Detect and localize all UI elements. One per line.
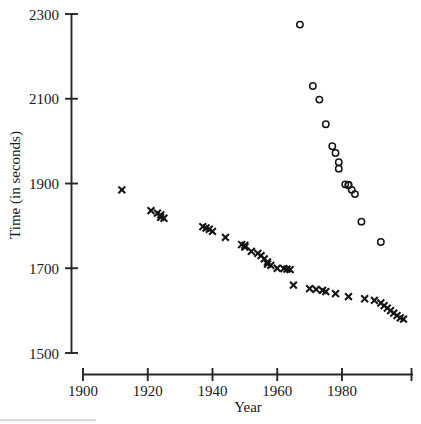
scatter-plot-figure: Time (in seconds) 15001700190021002300 1…: [0, 0, 421, 424]
y-tick-label: 1500: [29, 346, 59, 362]
y-tick-label: 2300: [29, 7, 59, 23]
data-point-x: [361, 295, 368, 302]
data-point-x: [345, 293, 352, 300]
x-tick-label: 1900: [68, 383, 98, 399]
x-tick-labels: 19001920194019601980: [68, 383, 357, 399]
data-point-circle: [332, 150, 338, 156]
chart-canvas: Time (in seconds) 15001700190021002300 1…: [0, 0, 421, 424]
data-point-circle: [336, 165, 342, 171]
data-point-x: [118, 186, 125, 193]
data-point-x: [274, 265, 281, 272]
data-point-circle: [297, 21, 303, 27]
x-tick-label: 1980: [327, 383, 357, 399]
y-tick-label: 2100: [29, 91, 59, 107]
data-point-circle: [358, 218, 364, 224]
x-tick-label: 1960: [262, 383, 292, 399]
data-point-x: [290, 282, 297, 289]
data-point-circle: [310, 83, 316, 89]
data-point-x: [248, 248, 255, 255]
data-point-circle: [378, 239, 384, 245]
data-point-circle: [316, 96, 322, 102]
data-point-circle: [336, 159, 342, 165]
data-point-x: [222, 234, 229, 241]
y-axis-title: Time (in seconds): [7, 131, 24, 239]
data-point-x: [332, 290, 339, 297]
data-series-x-markers: [118, 186, 406, 322]
data-point-circle: [323, 121, 329, 127]
y-tick-label: 1700: [29, 261, 59, 277]
x-tick-label: 1920: [133, 383, 163, 399]
data-point-x: [148, 207, 155, 214]
y-tick-labels: 15001700190021002300: [29, 7, 59, 362]
y-axis-title-group: Time (in seconds): [7, 131, 24, 239]
data-series-circle-markers: [297, 21, 384, 245]
data-point-x: [306, 285, 313, 292]
data-point-x: [371, 297, 378, 304]
scan-edge-artifact: [0, 419, 96, 421]
data-point-x: [313, 286, 320, 293]
x-tick-label: 1940: [198, 383, 228, 399]
x-axis-title: Year: [234, 399, 262, 415]
data-point-circle: [329, 143, 335, 149]
y-tick-label: 1900: [29, 176, 59, 192]
